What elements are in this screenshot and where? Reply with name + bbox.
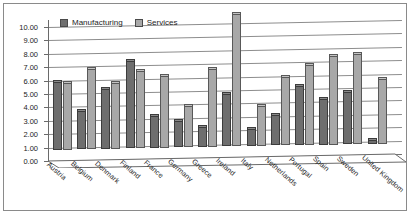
bar-group	[222, 20, 242, 154]
bar-face	[378, 79, 387, 143]
x-axis-label-sweden: Sweden	[335, 154, 361, 178]
y-axis-tick	[44, 81, 49, 82]
bar-face	[295, 86, 304, 145]
y-axis-tick-label: 4.00	[23, 104, 38, 112]
bar-top-cap	[87, 67, 96, 69]
bar-top-cap	[247, 127, 256, 129]
bar-series-container	[50, 20, 402, 154]
x-axis-label-united-kingdom: United Kingdom	[360, 153, 406, 194]
bar-manufacturing-italy	[247, 129, 256, 146]
bar-face	[222, 94, 231, 146]
bar-top-cap	[126, 59, 135, 61]
bar-top-cap	[101, 87, 110, 89]
bar-face	[329, 56, 338, 144]
bar-top-cap	[77, 109, 86, 111]
bar-top-cap	[295, 84, 304, 86]
bar-top-cap	[353, 52, 362, 54]
legend-swatch-icon	[60, 19, 68, 27]
bar-top-cap	[281, 75, 290, 77]
bar-services-france	[160, 76, 169, 148]
bar-group	[368, 20, 388, 154]
bar-face	[126, 61, 135, 148]
bar-face	[198, 127, 207, 147]
bar-group	[150, 20, 170, 154]
y-axis-tick-label: 1.00	[23, 145, 38, 153]
y-axis-tick	[44, 94, 49, 95]
bar-manufacturing-austria	[53, 82, 62, 150]
y-axis-tick-label: 7.00	[23, 64, 38, 72]
bar-face	[111, 83, 120, 149]
y-axis-tick-label: 10.00	[19, 24, 38, 32]
bar-face	[343, 92, 352, 144]
bar-face	[77, 111, 86, 150]
bar-services-spain	[329, 56, 338, 144]
bar-group	[295, 20, 315, 154]
bar-top-cap	[343, 90, 352, 92]
bar-top-cap	[319, 97, 328, 99]
legend-label: Services	[147, 18, 178, 27]
bar-face	[63, 83, 72, 150]
bar-top-cap	[111, 81, 120, 83]
bar-face	[305, 65, 314, 145]
bar-top-cap	[63, 81, 72, 83]
legend-label: Manufacturing	[72, 18, 123, 27]
bar-manufacturing-united-kingdom	[368, 140, 377, 144]
bar-face	[368, 140, 377, 144]
bar-top-cap	[222, 92, 231, 94]
bar-services-italy	[257, 106, 266, 146]
y-axis-tick	[44, 148, 49, 149]
chart-frame: 0.001.002.003.004.005.006.007.008.009.00…	[3, 3, 407, 211]
bar-services-denmark	[111, 83, 120, 149]
bar-top-cap	[136, 69, 145, 71]
y-axis-tick-label: 8.00	[23, 51, 38, 59]
bar-group	[271, 20, 291, 154]
legend-item-manufacturing[interactable]: Manufacturing	[60, 18, 123, 27]
bar-face	[257, 106, 266, 146]
y-axis-tick	[44, 134, 49, 135]
bar-face	[174, 121, 183, 148]
bar-face	[87, 69, 96, 149]
bar-services-finland	[136, 71, 145, 149]
y-axis-labels: 0.001.002.003.004.005.006.007.008.009.00…	[4, 20, 38, 162]
chart-legend: ManufacturingServices	[60, 18, 177, 27]
bar-services-sweden	[353, 54, 362, 144]
bar-manufacturing-belgium	[77, 111, 86, 150]
legend-item-services[interactable]: Services	[135, 18, 178, 27]
bar-face	[160, 76, 169, 148]
bar-face	[232, 14, 241, 147]
bar-top-cap	[232, 12, 241, 14]
bar-top-cap	[329, 54, 338, 56]
bar-manufacturing-ireland	[222, 94, 231, 146]
x-axis-label-italy: Italy	[239, 156, 255, 172]
bar-top-cap	[368, 138, 377, 140]
bar-manufacturing-germany	[174, 121, 183, 148]
bar-top-cap	[160, 74, 169, 76]
y-axis-tick-label: 0.00	[23, 158, 38, 166]
bar-manufacturing-france	[150, 116, 159, 148]
bar-services-austria	[63, 83, 72, 150]
bar-face	[208, 69, 217, 147]
bar-top-cap	[150, 114, 159, 116]
bar-face	[150, 116, 159, 148]
bar-group	[53, 20, 73, 154]
y-axis-tick-label: 9.00	[23, 37, 38, 45]
bar-services-germany	[184, 106, 193, 148]
bar-face	[319, 99, 328, 145]
x-axis-label-austria: Austria	[45, 160, 68, 182]
bar-manufacturing-sweden	[343, 92, 352, 144]
bar-services-belgium	[87, 69, 96, 149]
plot-area	[40, 20, 402, 162]
x-axis-label-france: France	[142, 158, 165, 180]
y-axis-tick-label: 6.00	[23, 78, 38, 86]
y-axis-tick	[44, 67, 49, 68]
bar-top-cap	[271, 113, 280, 115]
x-axis-labels: AustriaBelgiumDenmarkFinlandFranceGerman…	[40, 154, 410, 215]
y-axis-tick	[44, 40, 49, 41]
bar-face	[271, 115, 280, 146]
bar-group	[77, 20, 97, 154]
bar-group	[319, 20, 339, 154]
x-axis-label-denmark: Denmark	[93, 159, 121, 185]
bar-face	[247, 129, 256, 146]
bar-face	[281, 77, 290, 145]
bar-manufacturing-greece	[198, 127, 207, 147]
